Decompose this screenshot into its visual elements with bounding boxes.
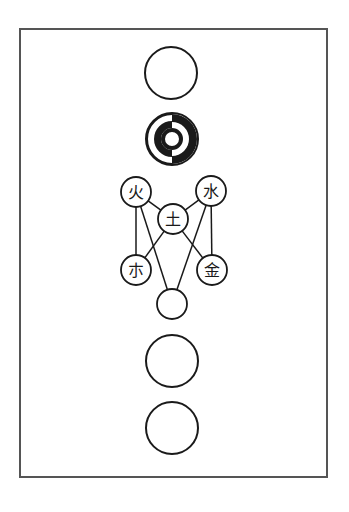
element-node-earth: 土 — [158, 204, 188, 234]
element-node-water: 水 — [196, 176, 226, 206]
lower-circle-2 — [146, 402, 198, 454]
element-node-metal: 金 — [197, 255, 227, 285]
wood-label: 朩 — [128, 261, 144, 280]
water-label: 水 — [203, 182, 219, 201]
five-elements-diagram: 火水土朩金 — [0, 0, 349, 512]
edge-fire-earth — [148, 201, 161, 210]
edge-earth-wood — [145, 231, 164, 258]
earth-label: 土 — [165, 210, 181, 229]
metal-label: 金 — [204, 261, 220, 280]
top-circle — [145, 47, 197, 99]
element-node-wood: 朩 — [121, 255, 151, 285]
element-node-fire: 火 — [121, 177, 151, 207]
concentric-yin-yang-symbol — [146, 113, 198, 165]
base-circle — [157, 289, 187, 319]
edge-water-earth — [185, 200, 199, 210]
edge-water-metal — [211, 206, 212, 255]
frame-border — [20, 29, 327, 477]
edge-earth-metal — [182, 231, 203, 258]
element-node-base — [157, 289, 187, 319]
lower-circle-1 — [146, 335, 198, 387]
fire-label: 火 — [128, 183, 144, 202]
